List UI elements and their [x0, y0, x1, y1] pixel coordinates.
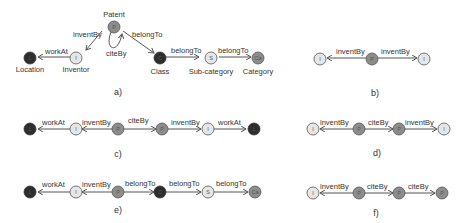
- meta-path-diagram: inventBy workAt citeBy belongTo belongTo…: [0, 0, 467, 223]
- node-category: Ca: [249, 186, 261, 198]
- label-inventBy: inventBy: [171, 118, 200, 127]
- svg-text:L: L: [252, 126, 255, 132]
- svg-text:P: P: [116, 126, 120, 132]
- node-location: L Location: [16, 52, 44, 74]
- label-belongTo: belongTo: [125, 179, 155, 188]
- label-citeBy: citeBy: [367, 182, 388, 191]
- svg-text:P: P: [112, 24, 116, 30]
- node-label-category: Category: [243, 67, 274, 76]
- svg-text:S: S: [209, 55, 213, 61]
- label-belongTo-1: belongTo: [132, 30, 162, 39]
- svg-text:P: P: [397, 126, 401, 132]
- node-label-location: Location: [16, 65, 44, 74]
- node-location: L: [24, 123, 36, 135]
- node-patent: P: [393, 187, 405, 199]
- svg-text:S: S: [206, 189, 210, 195]
- node-patent: P: [393, 123, 405, 135]
- svg-text:L: L: [28, 55, 31, 61]
- caption-e: e): [114, 205, 122, 215]
- node-inventor: I: [70, 186, 82, 198]
- panel-a: inventBy workAt citeBy belongTo belongTo…: [16, 10, 274, 97]
- node-label-patent: Patent: [103, 10, 126, 19]
- node-patent: P: [366, 53, 378, 65]
- svg-text:P: P: [370, 56, 374, 62]
- svg-text:P: P: [397, 190, 401, 196]
- node-inventor: I: [314, 53, 326, 65]
- edge-citeBy: [109, 32, 122, 48]
- node-patent: P: [112, 123, 124, 135]
- label-inventBy: inventBy: [381, 47, 410, 56]
- caption-a: a): [114, 87, 122, 97]
- svg-text:L: L: [28, 126, 31, 132]
- label-citeBy: citeBy: [368, 118, 389, 127]
- label-workAt: workAt: [41, 118, 66, 127]
- node-inventor: I: [307, 187, 319, 199]
- node-location: L: [248, 123, 260, 135]
- node-inventor: I: [307, 123, 319, 135]
- svg-text:P: P: [160, 126, 164, 132]
- node-subcategory: S Sub-category: [189, 52, 234, 76]
- panel-e: workAt inventBy belongTo belongTo belong…: [24, 179, 261, 215]
- svg-text:Ca: Ca: [251, 189, 259, 195]
- panel-b: inventBy inventBy I P I b): [314, 47, 430, 98]
- label-inventBy: inventBy: [320, 118, 349, 127]
- node-label-class: Class: [151, 67, 170, 76]
- panel-c: workAt inventBy citeBy inventBy workAt L…: [24, 116, 260, 159]
- label-inventBy: inventBy: [336, 47, 365, 56]
- caption-d: d): [373, 148, 381, 158]
- label-belongTo-2: belongTo: [171, 46, 201, 55]
- node-inventor: I: [438, 123, 450, 135]
- node-patent: P: [156, 123, 168, 135]
- label-inventBy: inventBy: [320, 182, 349, 191]
- label-inventBy: inventBy: [82, 118, 111, 127]
- label-inventBy: inventBy: [73, 30, 102, 39]
- label-citeBy: citeBy: [128, 116, 149, 125]
- label-citeBy: citeBy: [106, 49, 127, 58]
- label-belongTo-3: belongTo: [218, 46, 248, 55]
- node-patent: P: [112, 186, 124, 198]
- label-inventBy: inventBy: [82, 180, 111, 189]
- label-workAt: workAt: [41, 180, 66, 189]
- svg-text:Ca: Ca: [254, 55, 262, 61]
- svg-text:P: P: [440, 190, 444, 196]
- node-label-subcategory: Sub-category: [189, 67, 234, 76]
- panel-f: inventBy citeBy citeBy I P P P f): [307, 182, 448, 218]
- caption-b: b): [371, 88, 379, 98]
- label-belongTo: belongTo: [216, 179, 246, 188]
- node-category: Ca Category: [243, 52, 274, 76]
- node-patent: P: [353, 123, 365, 135]
- node-label-inventor: Inventor: [62, 65, 90, 74]
- label-citeBy: citeBy: [408, 182, 429, 191]
- label-workAt: workAt: [217, 118, 242, 127]
- node-class: C Class: [151, 52, 170, 76]
- svg-text:C: C: [158, 189, 162, 195]
- node-class: C: [154, 186, 166, 198]
- svg-text:P: P: [357, 190, 361, 196]
- label-inventBy: inventBy: [405, 118, 434, 127]
- svg-text:C: C: [158, 55, 162, 61]
- node-subcategory: S: [202, 186, 214, 198]
- node-inventor: I: [202, 123, 214, 135]
- label-workAt: workAt: [44, 47, 69, 56]
- panel-d: inventBy citeBy inventBy I P P I d): [307, 118, 450, 158]
- node-inventor: I: [418, 53, 430, 65]
- svg-text:P: P: [357, 126, 361, 132]
- caption-f: f): [373, 208, 379, 218]
- node-inventor: I: [70, 123, 82, 135]
- svg-text:L: L: [28, 189, 31, 195]
- label-belongTo: belongTo: [169, 179, 199, 188]
- node-location: L: [24, 186, 36, 198]
- node-patent: P: [436, 187, 448, 199]
- node-patent: P Patent: [103, 10, 126, 33]
- svg-text:P: P: [116, 189, 120, 195]
- node-patent: P: [353, 187, 365, 199]
- caption-c: c): [114, 149, 122, 159]
